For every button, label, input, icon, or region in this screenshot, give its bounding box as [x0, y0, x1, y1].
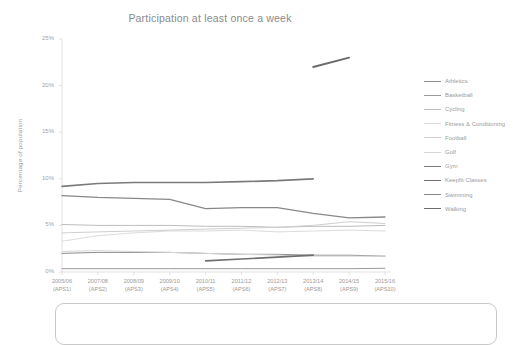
legend-item-cycling[interactable]: Cycling — [424, 102, 524, 116]
legend-item-fitness-conditioning[interactable]: Fitness & Conditioning — [424, 117, 524, 131]
series-line-swimming — [62, 196, 385, 218]
legend-label: Golf — [445, 149, 456, 155]
legend-label: Keepfit Classes — [445, 177, 487, 183]
callout-box — [55, 303, 497, 345]
legend-label: Swimming — [445, 192, 473, 198]
legend-swatch-icon — [424, 81, 441, 82]
legend-item-golf[interactable]: Golf — [424, 145, 524, 159]
legend-swatch-icon — [424, 137, 441, 138]
legend-swatch-icon — [424, 95, 441, 96]
legend-label: Football — [445, 135, 466, 141]
legend-swatch-icon — [424, 208, 441, 209]
legend-label: Gym — [445, 163, 458, 169]
legend-item-swimming[interactable]: Swimming — [424, 188, 524, 202]
legend-swatch-icon — [424, 194, 441, 195]
series-line-cycling — [62, 225, 385, 228]
legend-item-gym[interactable]: Gym — [424, 159, 524, 173]
legend-swatch-icon — [424, 109, 441, 110]
legend-label: Walking — [445, 206, 466, 212]
legend-item-keepfit-classes[interactable]: Keepfit Classes — [424, 173, 524, 187]
series-line-gym — [62, 179, 313, 187]
legend-label: Cycling — [445, 106, 465, 112]
series-line-keepfit-classes — [206, 255, 314, 261]
legend-swatch-icon — [424, 152, 441, 153]
chart-legend: AthleticsBasketballCyclingFitness & Cond… — [424, 74, 524, 216]
legend-swatch-icon — [424, 123, 441, 124]
legend-item-athletics[interactable]: Athletics — [424, 74, 524, 88]
legend-item-football[interactable]: Football — [424, 131, 524, 145]
legend-swatch-icon — [424, 166, 441, 167]
legend-label: Fitness & Conditioning — [445, 121, 505, 127]
series-line-walking — [313, 58, 349, 67]
series-line-football — [62, 222, 385, 233]
legend-label: Basketball — [445, 92, 473, 98]
legend-item-basketball[interactable]: Basketball — [424, 88, 524, 102]
legend-swatch-icon — [424, 180, 441, 181]
legend-label: Athletics — [445, 78, 468, 84]
legend-item-walking[interactable]: Walking — [424, 202, 524, 216]
